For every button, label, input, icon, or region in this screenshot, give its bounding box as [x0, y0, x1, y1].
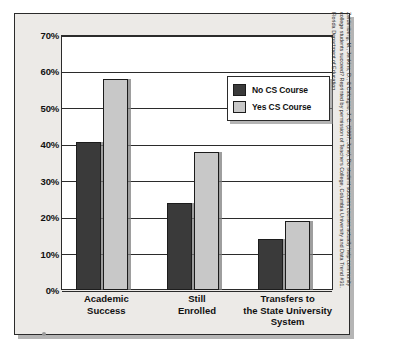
- gridline-20: [62, 218, 332, 219]
- citation-line-3: Florida Department of Education: [330, 12, 337, 352]
- plot-area: [61, 35, 333, 290]
- bar-chart-figure: 70%60%50%40%30%20%10%0% AcademicSuccessS…: [0, 0, 394, 359]
- speck-artifact: [42, 332, 46, 336]
- citation-line-2: college students succeed? Reprinted by p…: [337, 12, 344, 352]
- y-tick-label-70: 70%: [19, 30, 59, 41]
- gridline-60: [62, 72, 332, 73]
- gridline-10: [62, 254, 332, 255]
- legend-label-yes-cs-course: Yes CS Course: [252, 102, 311, 112]
- x-axis-labels: AcademicSuccessStillEnrolledTransfers to…: [61, 293, 333, 339]
- legend-item-yes-cs-course: Yes CS Course: [233, 98, 324, 115]
- gridline-0: [62, 291, 332, 292]
- y-tick-label-60: 60%: [19, 66, 59, 77]
- gridline-40: [62, 145, 332, 146]
- legend-label-no-cs-course: No CS Course: [252, 85, 308, 95]
- y-axis: 70%60%50%40%30%20%10%0%: [15, 35, 59, 290]
- y-tick-label-10: 10%: [19, 248, 59, 259]
- legend-swatch-no-cs-course: [233, 84, 246, 96]
- chart-panel: 70%60%50%40%30%20%10%0% AcademicSuccessS…: [14, 13, 350, 335]
- y-tick-label-30: 30%: [19, 175, 59, 186]
- y-tick-label-20: 20%: [19, 212, 59, 223]
- y-tick-label-40: 40%: [19, 139, 59, 150]
- gridline-70: [62, 36, 332, 37]
- citation-line-1: Zeidenberg, M., Jenkins, D., & Calcagno,…: [345, 12, 352, 352]
- legend-item-no-cs-course: No CS Course: [233, 81, 324, 98]
- source-citation: Zeidenberg, M., Jenkins, D., & Calcagno,…: [312, 12, 352, 352]
- y-tick-label-50: 50%: [19, 102, 59, 113]
- legend-swatch-yes-cs-course: [233, 101, 246, 113]
- gridline-30: [62, 181, 332, 182]
